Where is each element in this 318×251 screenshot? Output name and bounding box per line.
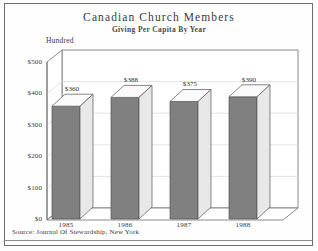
bar-value-label-1988: $390 <box>227 76 271 84</box>
source-note: Source: Journal Of Stewardship, New York <box>12 228 139 236</box>
ytick-200: $200 <box>12 152 42 160</box>
bar-value-label-1987: $375 <box>168 80 212 88</box>
ytick-0: $0 <box>12 215 42 223</box>
xtick-1988: 1988 <box>223 221 263 229</box>
bar-1986[interactable] <box>111 85 152 219</box>
bar-1985[interactable] <box>52 94 93 219</box>
ytick-400: $400 <box>12 89 42 97</box>
bar-value-label-1985: $360 <box>50 85 94 93</box>
chart-page: Canadian Church Members Giving Per Capit… <box>0 0 318 251</box>
footer-divider <box>5 240 312 241</box>
bar-1988[interactable] <box>229 85 270 219</box>
plot-area <box>0 0 318 251</box>
ytick-100: $100 <box>12 184 42 192</box>
ytick-500: $500 <box>12 58 42 66</box>
xtick-1987: 1987 <box>164 221 204 229</box>
bar-value-label-1986: $388 <box>109 76 153 84</box>
ytick-300: $300 <box>12 121 42 129</box>
bar-1987[interactable] <box>170 90 211 220</box>
